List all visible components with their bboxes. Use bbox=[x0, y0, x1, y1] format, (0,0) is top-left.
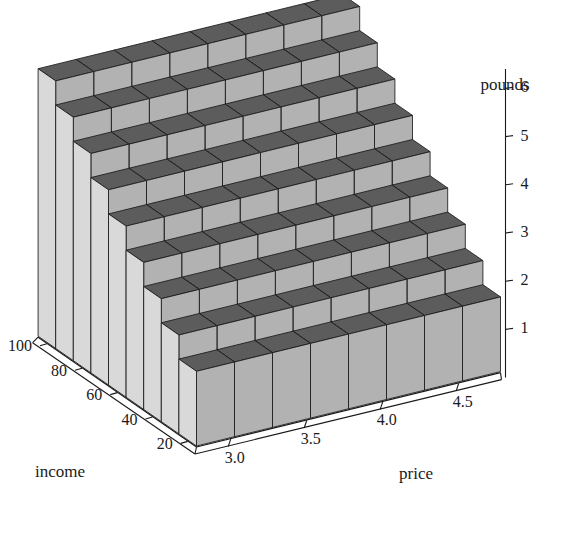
bar-side-face bbox=[161, 323, 179, 434]
price-axis-title: price bbox=[399, 464, 433, 483]
income-axis-title: income bbox=[35, 462, 85, 481]
price-tick-label: 3.5 bbox=[301, 430, 321, 447]
bar-front-face bbox=[349, 325, 387, 409]
3d-bar-chart-canvas: 3.03.54.04.520406080100123456poundsincom… bbox=[0, 0, 565, 537]
pounds-tick-mark bbox=[506, 328, 514, 329]
bar-side-face bbox=[38, 69, 56, 349]
income-tick-mark bbox=[75, 368, 82, 370]
price-axis-cap-right bbox=[501, 373, 502, 380]
bar-front-face bbox=[463, 297, 501, 381]
bar-cell bbox=[179, 350, 235, 446]
chart-figure: 3.03.54.04.520406080100123456poundsincom… bbox=[0, 0, 565, 537]
bars-layer bbox=[38, 0, 500, 446]
bar-side-face bbox=[56, 105, 74, 361]
bar-front-face bbox=[311, 334, 349, 418]
income-tick-mark bbox=[181, 441, 188, 443]
pounds-tick-label: 4 bbox=[521, 175, 529, 192]
pounds-tick-label: 2 bbox=[521, 271, 529, 288]
bar-front-face bbox=[273, 343, 311, 427]
bar-side-face bbox=[126, 250, 144, 409]
income-axis-cap-far bbox=[33, 337, 39, 343]
income-tick-mark bbox=[110, 393, 117, 395]
bar-front-face bbox=[425, 306, 463, 390]
price-tick-label: 4.5 bbox=[453, 393, 473, 410]
bar-front-face bbox=[235, 353, 273, 437]
pounds-tick-mark bbox=[506, 232, 514, 233]
pounds-axis-title: pounds bbox=[480, 75, 529, 94]
pounds-tick-mark bbox=[506, 280, 514, 281]
income-tick-label: 60 bbox=[86, 386, 102, 403]
bar-side-face bbox=[73, 141, 91, 373]
pounds-tick-mark bbox=[506, 184, 514, 185]
income-tick-label: 100 bbox=[8, 337, 32, 354]
bar-side-face bbox=[109, 214, 127, 397]
bar-side-face bbox=[144, 286, 162, 421]
income-tick-label: 40 bbox=[122, 411, 138, 428]
pounds-tick-label: 5 bbox=[521, 127, 529, 144]
income-tick-mark bbox=[40, 344, 47, 346]
bar-front-face bbox=[387, 315, 425, 399]
income-tick-label: 20 bbox=[157, 435, 173, 452]
bar-side-face bbox=[179, 359, 197, 446]
bar-front-face bbox=[197, 362, 235, 446]
bar-side-face bbox=[91, 178, 109, 385]
price-tick-label: 3.0 bbox=[225, 449, 245, 466]
income-tick-mark bbox=[146, 417, 153, 419]
pounds-tick-label: 3 bbox=[521, 223, 529, 240]
pounds-tick-mark bbox=[506, 136, 514, 137]
pounds-tick-label: 1 bbox=[521, 319, 529, 336]
price-tick-label: 4.0 bbox=[377, 411, 397, 428]
income-tick-label: 80 bbox=[51, 362, 67, 379]
price-axis-cap-left bbox=[195, 447, 197, 454]
